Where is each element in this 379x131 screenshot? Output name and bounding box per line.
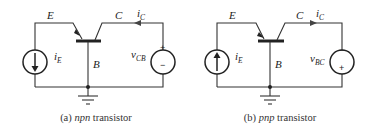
emitter-label: E xyxy=(46,9,54,21)
current-source-icon xyxy=(205,50,229,74)
ie-label: iE xyxy=(235,50,243,65)
ic-arrow-icon xyxy=(310,20,317,26)
collector-label: C xyxy=(296,9,304,21)
ground-icon xyxy=(260,96,280,104)
ground-icon xyxy=(78,96,98,104)
plus-sign: + xyxy=(160,43,165,53)
circuit-npn: + − E C B iC iE vCB (a) npn transistor xyxy=(23,7,175,124)
ie-label: iE xyxy=(54,50,62,65)
vcb-label: vCB xyxy=(131,48,146,63)
ic-label: iC xyxy=(316,7,325,22)
circuit-pnp: − + E C B iC iE vBC (b) pnp transistor xyxy=(205,7,354,124)
base-label: B xyxy=(93,58,100,70)
current-source-icon xyxy=(23,50,47,74)
emitter-label: E xyxy=(228,9,236,21)
base-label: B xyxy=(275,58,282,70)
junction-dot xyxy=(268,85,272,89)
caption-a: (a) npn transistor xyxy=(60,112,132,124)
junction-dot xyxy=(86,85,90,89)
ic-label: iC xyxy=(137,7,146,22)
transistor-circuits-diagram: + − E C B iC iE vCB (a) npn transistor xyxy=(0,0,379,131)
collector-label: C xyxy=(115,9,123,21)
minus-sign: − xyxy=(160,60,165,70)
caption-b: (b) pnp transistor xyxy=(244,112,317,124)
vbc-label: vBC xyxy=(310,52,325,67)
plus-sign: + xyxy=(339,63,344,73)
minus-sign: − xyxy=(339,45,344,55)
